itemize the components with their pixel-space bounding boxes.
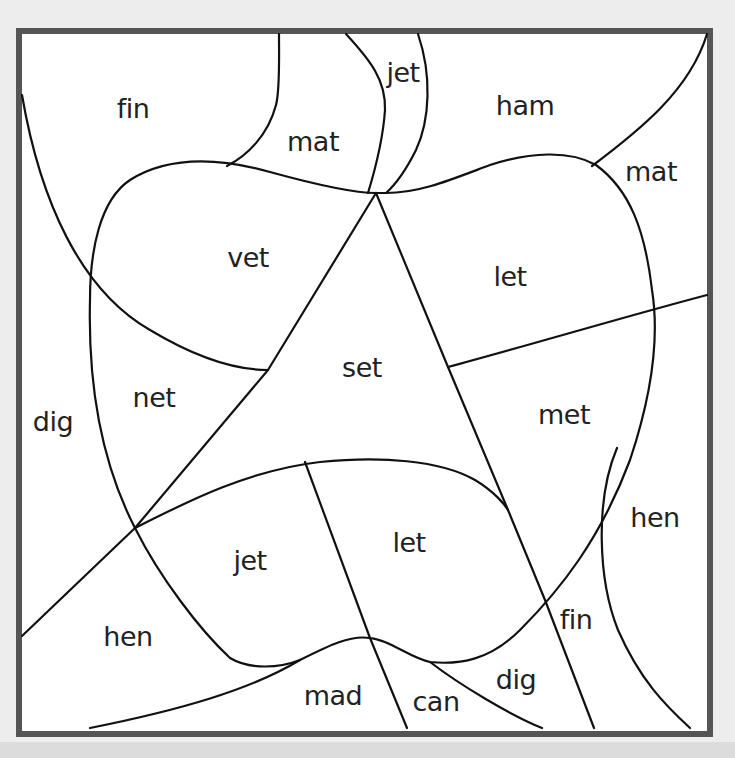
region-hen-left[interactable]: hen (103, 623, 152, 650)
region-mad[interactable]: mad (304, 682, 363, 709)
region-fin-top-left[interactable]: fin (117, 95, 150, 122)
region-dig-left[interactable]: dig (33, 408, 73, 435)
arc-lower-inner (135, 459, 508, 528)
region-set[interactable]: set (342, 354, 382, 381)
region-ham-top[interactable]: ham (496, 92, 554, 119)
line-mad-bottom (90, 660, 300, 728)
line-fin-mat (227, 34, 279, 166)
region-mat-top[interactable]: mat (287, 128, 339, 155)
region-jet-top[interactable]: jet (386, 59, 419, 86)
region-vet[interactable]: vet (227, 244, 269, 271)
line-ham-mat-right (592, 34, 707, 166)
region-hen-right[interactable]: hen (630, 504, 679, 531)
region-mat-top-right[interactable]: mat (625, 158, 677, 185)
region-jet-lower[interactable]: jet (233, 547, 266, 574)
line-mat-jet (346, 34, 385, 193)
region-dig-bottom[interactable]: dig (496, 666, 536, 693)
region-net[interactable]: net (133, 384, 176, 411)
region-fin-lower[interactable]: fin (560, 606, 593, 633)
region-let-upper[interactable]: let (493, 263, 526, 290)
triangle-left-side (22, 193, 376, 636)
line-let-met (448, 295, 707, 367)
line-hen-right (602, 448, 690, 728)
region-met[interactable]: met (538, 401, 590, 428)
region-let-lower[interactable]: let (392, 529, 425, 556)
region-can[interactable]: can (412, 688, 459, 715)
arc-left-top (22, 95, 268, 370)
